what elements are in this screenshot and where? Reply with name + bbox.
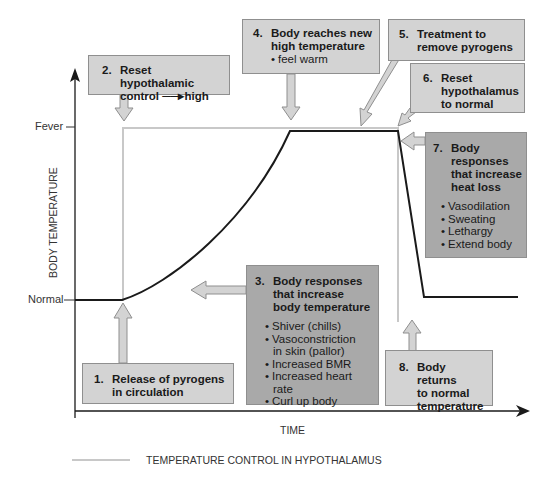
step8-number: 8. xyxy=(399,361,417,413)
step3-arrow-icon xyxy=(191,281,246,299)
step2-box: 2. Reset hypothalamic control ──▸high xyxy=(88,55,230,95)
step3-bullet: Increased heart rate xyxy=(265,370,374,395)
step8-title: Body returns to normal temperature xyxy=(417,361,488,413)
step4-number: 4. xyxy=(253,27,271,53)
step2-title: Reset hypothalamic control ──▸high xyxy=(120,64,221,103)
step1-title: Release of pyrogens in circulation xyxy=(112,373,227,399)
normal-label: Normal xyxy=(28,293,63,305)
step3-number: 3. xyxy=(255,275,273,314)
step4-bullet: feel warm xyxy=(271,53,373,66)
step1-arrow-icon xyxy=(114,303,132,363)
step3-bullet: Shiver (chills) xyxy=(265,320,374,333)
step5-number: 5. xyxy=(399,28,417,54)
step7-bullet: Extend body xyxy=(441,238,522,251)
step3-bullet: Vasoconstriction in skin (pallor) xyxy=(265,333,374,358)
step4-box: 4. Body reaches new high temperature fee… xyxy=(242,19,380,74)
step7-bullet: Vasodilation xyxy=(441,200,522,213)
step4-arrow-icon xyxy=(282,74,300,120)
step4-title: Body reaches new high temperature xyxy=(271,27,373,53)
step6-number: 6. xyxy=(423,72,441,111)
step8-arrow-icon xyxy=(403,320,421,351)
step3-title: Body responses that increase body temper… xyxy=(273,275,374,314)
legend-label: TEMPERATURE CONTROL IN HYPOTHALAMUS xyxy=(146,454,382,466)
y-axis-title: BODY TEMPERATURE xyxy=(47,167,59,278)
x-axis-title: TIME xyxy=(280,424,305,436)
step7-box: 7. Body responses that increase heat los… xyxy=(425,132,527,258)
step1-number: 1. xyxy=(94,373,112,399)
step7-bullet: Lethargy xyxy=(441,225,522,238)
fever-label: Fever xyxy=(35,120,63,132)
step1-box: 1. Release of pyrogens in circulation xyxy=(82,363,234,404)
step3-box: 3. Body responses that increase body tem… xyxy=(246,265,379,405)
step6-box: 6. Reset hypothalamus to normal xyxy=(410,63,525,113)
step3-bullet: Increased BMR xyxy=(265,358,374,371)
step3-bullet: Curl up body xyxy=(265,395,374,408)
step7-arrow-icon xyxy=(401,132,425,150)
step7-number: 7. xyxy=(433,142,451,194)
step7-title: Body responses that increase heat loss xyxy=(451,142,522,194)
step5-title: Treatment to remove pyrogens xyxy=(417,28,518,54)
step2-number: 2. xyxy=(102,64,120,103)
step7-bullet: Sweating xyxy=(441,213,522,226)
step5-box: 5. Treatment to remove pyrogens xyxy=(388,19,525,61)
step8-box: 8. Body returns to normal temperature xyxy=(385,350,493,406)
step6-title: Reset hypothalamus to normal xyxy=(441,72,519,111)
